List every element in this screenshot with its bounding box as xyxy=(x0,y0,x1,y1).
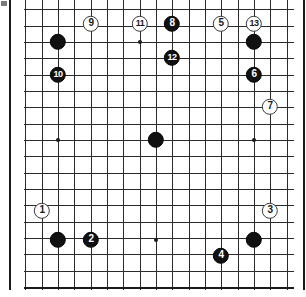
stone-move-number: 2 xyxy=(88,234,93,244)
grid-line-vertical xyxy=(25,0,26,290)
board-clip: 12345678910111213 xyxy=(0,0,306,297)
star-point xyxy=(154,238,158,242)
stone-white-7[interactable]: 7 xyxy=(262,99,278,115)
stone-move-number: 7 xyxy=(267,101,272,111)
grid-line-vertical xyxy=(221,0,222,290)
stone-black[interactable] xyxy=(50,232,66,248)
grid-line-vertical xyxy=(9,0,11,290)
go-board-diagram: 12345678910111213 xyxy=(0,0,306,297)
stone-black[interactable] xyxy=(246,34,262,50)
grid-line-horizontal xyxy=(24,156,294,157)
grid-line-vertical xyxy=(287,0,288,290)
stone-black[interactable] xyxy=(50,34,66,50)
scan-artifact-mark xyxy=(1,1,7,6)
stone-white-3[interactable]: 3 xyxy=(262,203,278,219)
grid-line-vertical xyxy=(238,0,239,290)
stone-move-number: 3 xyxy=(267,205,272,215)
grid-line-horizontal xyxy=(24,287,294,289)
grid-line-horizontal xyxy=(24,9,294,10)
stone-move-number: 4 xyxy=(218,250,223,260)
stone-move-number: 13 xyxy=(249,19,258,28)
grid-line-horizontal xyxy=(24,173,294,174)
stone-white-11[interactable]: 11 xyxy=(132,16,148,32)
stone-move-number: 11 xyxy=(136,19,145,28)
star-point xyxy=(138,40,142,44)
grid-line-vertical xyxy=(189,0,190,290)
grid-line-vertical xyxy=(123,0,124,290)
stone-white-13[interactable]: 13 xyxy=(246,16,262,32)
star-point xyxy=(56,138,60,142)
grid-line-horizontal xyxy=(24,222,294,223)
grid-line-horizontal xyxy=(24,58,294,59)
grid-line-vertical xyxy=(74,0,75,290)
stone-black-6[interactable]: 6 xyxy=(246,67,262,83)
stone-black-4[interactable]: 4 xyxy=(213,248,229,264)
grid-line-horizontal xyxy=(24,124,294,125)
grid-line-vertical xyxy=(42,0,43,290)
stone-black[interactable] xyxy=(246,232,262,248)
stone-white-1[interactable]: 1 xyxy=(34,203,50,219)
stone-move-number: 12 xyxy=(167,53,176,62)
grid-line-vertical xyxy=(270,0,271,290)
grid-line-vertical xyxy=(107,0,108,290)
stone-move-number: 9 xyxy=(88,18,93,28)
grid-line-vertical xyxy=(205,0,206,290)
grid-line-horizontal xyxy=(24,189,294,190)
stone-white-5[interactable]: 5 xyxy=(213,16,229,32)
stone-move-number: 5 xyxy=(218,18,223,28)
grid-line-horizontal xyxy=(24,205,294,206)
stone-move-number: 8 xyxy=(169,18,174,28)
grid-line-horizontal xyxy=(24,271,294,272)
stone-move-number: 10 xyxy=(53,70,62,79)
stone-black[interactable] xyxy=(148,132,164,148)
grid-line-vertical xyxy=(172,0,173,290)
stone-white-9[interactable]: 9 xyxy=(83,16,99,32)
stone-black-10[interactable]: 10 xyxy=(50,67,66,83)
stone-move-number: 1 xyxy=(39,205,44,215)
grid-line-vertical xyxy=(303,0,305,290)
grid-line-horizontal xyxy=(24,107,294,108)
stone-black-2[interactable]: 2 xyxy=(83,232,99,248)
grid-line-horizontal xyxy=(24,254,294,255)
grid-line-horizontal xyxy=(24,91,294,92)
stone-black-12[interactable]: 12 xyxy=(164,50,180,66)
star-point xyxy=(252,138,256,142)
stone-move-number: 6 xyxy=(251,69,256,79)
stone-black-8[interactable]: 8 xyxy=(164,16,180,32)
